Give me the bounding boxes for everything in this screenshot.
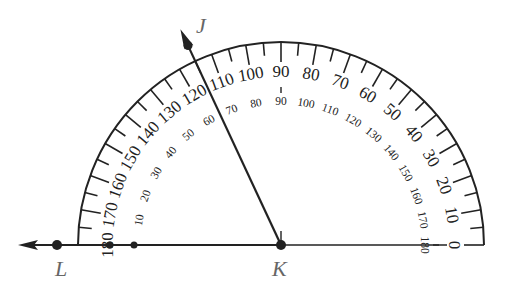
- tick-mark: [105, 144, 122, 154]
- inner-scale-label: 90: [275, 95, 287, 107]
- outer-scale-label: 70: [329, 70, 351, 94]
- tick-mark: [437, 129, 448, 136]
- tick-mark: [212, 54, 219, 73]
- point-label-k: K: [271, 256, 288, 281]
- tick-mark: [465, 192, 478, 195]
- tick-mark: [165, 79, 172, 90]
- tick-mark: [373, 69, 383, 86]
- point-mark: [107, 242, 114, 249]
- protractor: 0102030405060708090100110120130140150160…: [78, 42, 484, 258]
- tick-mark: [298, 43, 299, 56]
- inner-scale-label: 60: [201, 112, 217, 128]
- tick-mark: [399, 89, 412, 104]
- tick-mark: [344, 54, 351, 73]
- tick-mark: [439, 144, 456, 154]
- tick-mark: [79, 227, 92, 228]
- rays: [18, 29, 447, 250]
- outer-scale-label: 80: [301, 63, 321, 85]
- tick-mark: [263, 43, 264, 56]
- point-l: [52, 240, 62, 250]
- outer-scale-label: 100: [237, 62, 265, 85]
- inner-scale-label: 120: [343, 110, 364, 129]
- inner-scale-label: 170: [416, 210, 431, 229]
- outer-scale-label: 170: [98, 201, 121, 229]
- outer-scale-label: 30: [419, 146, 444, 170]
- tick-mark: [137, 101, 146, 110]
- inner-scale-label: 150: [397, 162, 416, 183]
- point-label-l: L: [54, 256, 67, 281]
- tick-mark: [246, 45, 249, 65]
- inner-scale-label: 80: [249, 96, 263, 110]
- tick-mark: [180, 69, 190, 86]
- tick-mark: [85, 192, 98, 195]
- inner-scale-label: 160: [408, 185, 425, 206]
- tick-mark: [421, 115, 436, 128]
- inner-scale-label: 20: [138, 188, 153, 203]
- tick-mark: [115, 129, 126, 136]
- point-k: [276, 240, 286, 250]
- protractor-svg: 0102030405060708090100110120130140150160…: [0, 0, 507, 298]
- inner-scale-label: 100: [297, 95, 316, 110]
- point-mark: [131, 242, 138, 249]
- tick-mark: [81, 210, 101, 213]
- inner-scale-label: 50: [180, 126, 197, 143]
- ray-kj: [185, 38, 281, 245]
- inner-scale-label: 130: [363, 124, 384, 144]
- outer-scale-label: 60: [356, 82, 380, 107]
- outer-scale-label: 130: [154, 97, 186, 128]
- tick-mark: [90, 176, 109, 183]
- inner-scale-label: 110: [320, 101, 340, 118]
- tick-mark: [228, 49, 231, 62]
- inner-scale-label: 70: [224, 102, 239, 117]
- outer-scale-label: 150: [116, 142, 145, 174]
- inner-scale-label: 140: [381, 142, 401, 163]
- point-j: [184, 41, 193, 50]
- outer-scale-label: 110: [207, 69, 237, 95]
- tick-mark: [453, 176, 472, 183]
- tick-mark: [313, 45, 316, 65]
- tick-mark: [453, 159, 465, 164]
- outer-scale-label: 0: [445, 241, 464, 250]
- tick-mark: [97, 159, 109, 164]
- tick-mark: [361, 61, 366, 73]
- outer-scale-label: 140: [133, 118, 164, 150]
- point-label-j: J: [196, 13, 207, 38]
- tick-mark: [470, 227, 483, 228]
- tick-mark: [151, 89, 164, 104]
- outer-scale-label: 160: [105, 170, 132, 200]
- protractor-diagram: 0102030405060708090100110120130140150160…: [0, 0, 507, 298]
- outer-scale-label: 90: [273, 62, 290, 81]
- tick-mark: [125, 115, 140, 128]
- inner-scale-label: 30: [148, 165, 164, 181]
- outer-scale-label: 20: [432, 174, 456, 196]
- inner-scale-label: 40: [162, 144, 179, 161]
- tick-mark: [330, 49, 333, 62]
- outer-scale-label: 40: [401, 121, 426, 146]
- tick-mark: [415, 101, 424, 110]
- outer-scale-label: 10: [441, 205, 463, 225]
- tick-mark: [390, 79, 397, 90]
- inner-scale-label: 10: [132, 213, 146, 227]
- outer-scale-label: 50: [380, 99, 405, 124]
- tick-mark: [461, 210, 481, 213]
